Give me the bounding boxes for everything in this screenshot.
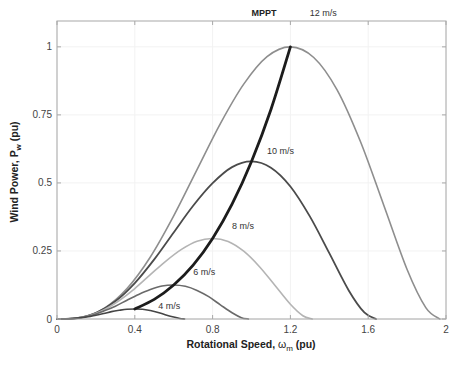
x-tick-label: 1.6 [361, 324, 375, 335]
label-mppt: MPPT [252, 8, 278, 18]
x-axis-title: Rotational Speed, ωm (pu) [186, 338, 315, 353]
y-tick-label: 0 [46, 314, 52, 325]
label-6-m-s: 6 m/s [193, 267, 216, 277]
x-tick-label: 1.2 [283, 324, 297, 335]
x-tick-label: 0.4 [128, 324, 142, 335]
plot-area-border [57, 21, 446, 319]
y-axis-title: Wind Power, Pw (pu) [8, 121, 23, 222]
label-8-m-s: 8 m/s [232, 221, 255, 231]
y-tick-label: 1 [46, 41, 52, 52]
y-tick-label: 0.5 [38, 177, 52, 188]
x-tick-label: 0.8 [206, 324, 220, 335]
grid-lines [57, 21, 446, 319]
label-12-m-s: 12 m/s [310, 8, 338, 18]
y-tick-label: 0.25 [33, 245, 53, 256]
curve-10-m-s [57, 161, 376, 319]
curve-6-m-s [57, 285, 248, 319]
label-4-m-s: 4 m/s [158, 301, 181, 311]
x-tick-label: 0 [54, 324, 60, 335]
axis-ticks: 00.40.81.21.6200.250.50.751 [33, 21, 450, 335]
x-tick-label: 2 [443, 324, 449, 335]
label-10-m-s: 10 m/s [267, 146, 295, 156]
y-tick-label: 0.75 [33, 109, 53, 120]
wind-power-chart: 00.40.81.21.6200.250.50.751 MPPT12 m/s10… [0, 0, 468, 366]
